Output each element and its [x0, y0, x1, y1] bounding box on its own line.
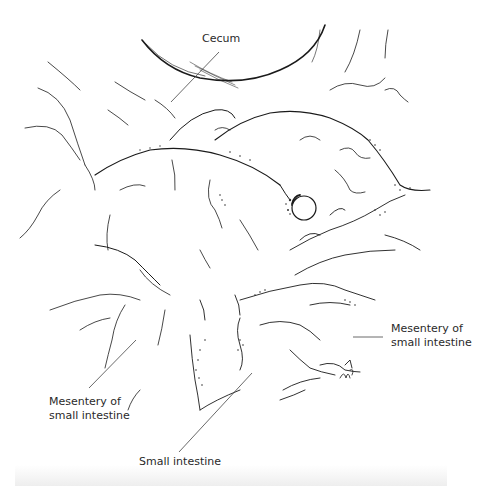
small-intestine-central-loop [95, 148, 290, 295]
label-cecum-text: Cecum [202, 32, 240, 46]
label-mesentery-left: Mesentery of small intestine [49, 395, 130, 423]
label-mesentery-right-line2: small intestine [391, 336, 472, 350]
appendix-knot [292, 195, 316, 220]
leader-small-intestine [179, 373, 252, 452]
label-mesentery-right: Mesentery of small intestine [391, 322, 472, 350]
leader-cecum [171, 52, 219, 102]
label-mesentery-left-line1: Mesentery of [49, 395, 130, 409]
mesentery-lower-left [50, 294, 165, 410]
mesentery-upper-right [330, 30, 408, 102]
label-mesentery-left-line2: small intestine [49, 409, 130, 423]
mesentery-root [190, 295, 243, 410]
small-intestine-right-loops [240, 195, 420, 400]
leader-mesentery-left [89, 340, 136, 388]
label-mesentery-right-line1: Mesentery of [391, 322, 472, 336]
stipple-shading [139, 139, 411, 386]
label-small-intestine: Small intestine [139, 455, 221, 469]
small-intestine-upper-loop [170, 110, 430, 193]
label-cecum: Cecum [202, 32, 240, 46]
label-small-intestine-text: Small intestine [139, 455, 221, 469]
